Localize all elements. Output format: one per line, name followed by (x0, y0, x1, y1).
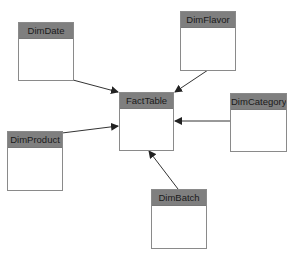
entity-dimbatch[interactable]: DimBatch (151, 189, 207, 249)
entity-facttable[interactable]: FactTable (119, 92, 174, 151)
entity-header: DimProduct (8, 132, 62, 148)
entity-dimproduct[interactable]: DimProduct (7, 131, 63, 191)
entity-header: DimDate (19, 23, 73, 39)
arrow-dimflavor-to-facttable (175, 70, 208, 92)
arrow-dimbatch-to-facttable (149, 151, 178, 189)
arrow-dimproduct-to-facttable (62, 126, 118, 133)
entity-dimflavor[interactable]: DimFlavor (180, 11, 236, 71)
entity-dimcategory[interactable]: DimCategory (230, 93, 287, 152)
entity-header: DimFlavor (181, 12, 235, 28)
arrow-dimdate-to-facttable (73, 80, 118, 92)
entity-header: DimBatch (152, 190, 206, 206)
entity-header: DimCategory (231, 94, 286, 110)
entity-header: FactTable (120, 93, 173, 109)
entity-dimdate[interactable]: DimDate (18, 22, 74, 81)
